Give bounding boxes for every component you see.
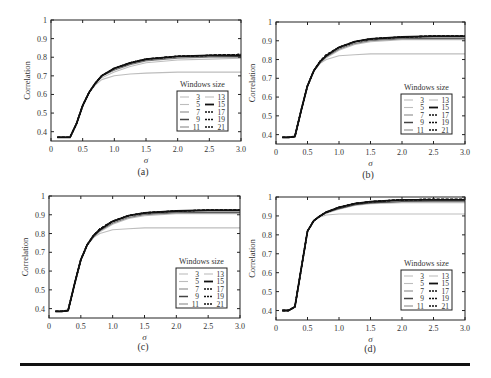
x-tick-label: 1.5 xyxy=(141,145,151,154)
legend-title: Windows size xyxy=(404,259,449,268)
legend: Windows size3579111315171921 xyxy=(177,80,228,132)
chart-panel-d: 0.40.50.60.70.80.9100.51.01.52.02.53.0σC… xyxy=(247,193,470,355)
y-tick-label: 0.6 xyxy=(262,269,272,278)
x-tick-label: 2.5 xyxy=(204,145,214,154)
x-tick-label: 2.0 xyxy=(171,322,181,331)
x-tick-label: 1.0 xyxy=(334,148,344,157)
x-tick-label: 1.5 xyxy=(366,148,376,157)
y-tick-label: 1 xyxy=(43,16,47,25)
chart-canvas: 0.40.50.60.70.80.9100.51.01.52.02.53.0σC… xyxy=(0,0,491,378)
legend: Windows size3579111315171921 xyxy=(401,259,452,311)
chart-panel-c: 0.40.50.60.70.80.9100.51.01.52.02.53.0σC… xyxy=(20,192,245,353)
legend-label-11: 11 xyxy=(193,123,200,132)
y-tick-label: 0.8 xyxy=(262,231,272,240)
x-tick-label: 3.0 xyxy=(460,324,470,333)
x-axis-label: σ xyxy=(368,158,373,168)
legend-title: Windows size xyxy=(180,80,225,89)
x-tick-label: 1.0 xyxy=(334,324,344,333)
y-tick-label: 0.7 xyxy=(37,72,47,81)
x-tick-label: 1.0 xyxy=(109,145,119,154)
x-tick-label: 1.5 xyxy=(140,322,150,331)
legend-label-11: 11 xyxy=(192,300,199,309)
x-axis-label: σ xyxy=(144,155,149,165)
x-tick-label: 2.0 xyxy=(397,324,407,333)
y-tick-label: 0.6 xyxy=(262,93,272,102)
x-tick-label: 0 xyxy=(274,324,278,333)
legend-label-11: 11 xyxy=(417,126,424,135)
panel-caption: (b) xyxy=(362,169,374,181)
chart-panel-b: 0.40.50.60.70.80.9100.51.01.52.02.53.0σC… xyxy=(247,18,470,181)
figure-2x2-correlation-vs-sigma: 0.40.50.60.70.80.9100.51.01.52.02.53.0σC… xyxy=(0,0,491,378)
x-tick-label: 0.5 xyxy=(76,322,86,331)
x-tick-label: 3.0 xyxy=(460,148,470,157)
y-tick-label: 0.8 xyxy=(35,230,45,239)
panel-caption: (a) xyxy=(137,166,148,178)
x-tick-label: 0 xyxy=(49,145,53,154)
x-tick-label: 2.5 xyxy=(429,148,439,157)
y-tick-label: 1 xyxy=(268,193,272,202)
x-tick-label: 0 xyxy=(47,322,51,331)
x-tick-label: 3.0 xyxy=(235,322,245,331)
x-tick-label: 0.5 xyxy=(78,145,88,154)
y-tick-label: 0.4 xyxy=(37,128,47,137)
y-tick-label: 1 xyxy=(41,192,45,201)
legend-title: Windows size xyxy=(404,83,449,92)
x-tick-label: 1.5 xyxy=(366,324,376,333)
x-tick-label: 0.5 xyxy=(303,324,313,333)
legend-label-21: 21 xyxy=(217,300,225,309)
bottom-rule-divider xyxy=(20,363,470,366)
x-tick-label: 3.0 xyxy=(236,145,246,154)
chart-panel-a: 0.40.50.60.70.80.9100.51.01.52.02.53.0σC… xyxy=(22,16,246,178)
y-axis-label: Correlation xyxy=(247,238,257,277)
y-axis-label: Correlation xyxy=(20,237,30,276)
x-tick-label: 2.5 xyxy=(203,322,213,331)
y-tick-label: 1 xyxy=(268,18,272,27)
legend: Windows size3579111315171921 xyxy=(176,257,227,309)
legend-label-21: 21 xyxy=(442,302,450,311)
y-tick-label: 0.7 xyxy=(35,248,45,257)
x-tick-label: 1.0 xyxy=(108,322,118,331)
y-tick-label: 0.9 xyxy=(35,211,45,220)
y-tick-label: 0.5 xyxy=(262,288,272,297)
y-tick-label: 0.5 xyxy=(35,286,45,295)
y-tick-label: 0.6 xyxy=(37,90,47,99)
y-tick-label: 0.4 xyxy=(262,307,272,316)
y-tick-label: 0.9 xyxy=(37,35,47,44)
y-tick-label: 0.4 xyxy=(262,131,272,140)
y-axis-label: Correlation xyxy=(22,60,32,99)
y-tick-label: 0.8 xyxy=(262,56,272,65)
legend-label-21: 21 xyxy=(442,126,450,135)
y-tick-label: 0.7 xyxy=(262,250,272,259)
y-tick-label: 0.9 xyxy=(262,212,272,221)
x-tick-label: 0 xyxy=(274,148,278,157)
legend: Windows size3579111315171921 xyxy=(401,83,452,135)
y-tick-label: 0.9 xyxy=(262,37,272,46)
y-tick-label: 0.7 xyxy=(262,74,272,83)
y-tick-label: 0.5 xyxy=(262,112,272,121)
legend-label-21: 21 xyxy=(218,123,226,132)
x-tick-label: 2.5 xyxy=(429,324,439,333)
y-tick-label: 0.8 xyxy=(37,53,47,62)
x-tick-label: 0.5 xyxy=(303,148,313,157)
y-tick-label: 0.5 xyxy=(37,109,47,118)
panel-caption: (c) xyxy=(137,341,148,353)
y-tick-label: 0.6 xyxy=(35,267,45,276)
x-tick-label: 2.0 xyxy=(173,145,183,154)
y-axis-label: Correlation xyxy=(247,63,257,102)
legend-label-11: 11 xyxy=(417,302,424,311)
x-tick-label: 2.0 xyxy=(397,148,407,157)
legend-title: Windows size xyxy=(179,257,224,266)
panel-caption: (d) xyxy=(364,343,376,355)
y-tick-label: 0.4 xyxy=(35,305,45,314)
